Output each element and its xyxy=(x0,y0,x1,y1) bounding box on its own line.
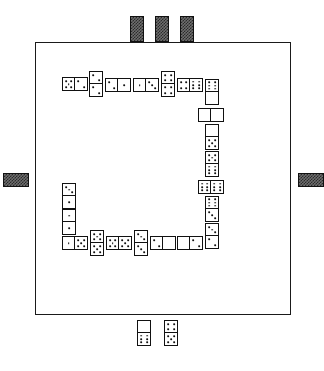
pip xyxy=(77,80,79,82)
domino-blank-blank-half-b xyxy=(211,109,223,121)
domino-blank-6-half-a xyxy=(138,321,150,333)
pip xyxy=(170,338,172,340)
domino-3-2 xyxy=(205,223,219,249)
domino-5-6-half-a xyxy=(206,152,218,164)
pip xyxy=(139,84,141,86)
pip xyxy=(164,86,166,88)
pip xyxy=(211,142,213,144)
pip xyxy=(185,87,187,89)
pip xyxy=(68,201,70,203)
pip xyxy=(208,145,210,147)
domino-blank-6[interactable] xyxy=(137,320,151,346)
domino-4-5-half-a xyxy=(165,321,177,333)
pip xyxy=(208,139,210,141)
domino-2-1-half-a xyxy=(106,79,118,91)
pip xyxy=(173,341,175,343)
pip xyxy=(214,202,216,204)
pip xyxy=(201,190,203,192)
pip xyxy=(70,80,72,82)
pip xyxy=(219,186,221,188)
pip xyxy=(68,83,70,85)
domino-6-3 xyxy=(205,196,219,222)
pip xyxy=(213,190,215,192)
domino-4-4-half-a xyxy=(162,72,174,84)
domino-1-1-half-a xyxy=(63,210,75,222)
domino-6-6-half-a xyxy=(199,181,211,193)
pip xyxy=(65,186,67,188)
pip xyxy=(180,81,182,83)
pip xyxy=(173,323,175,325)
pip xyxy=(214,231,216,233)
pip xyxy=(206,183,208,185)
domino-3-3-half-a xyxy=(135,231,147,243)
pip xyxy=(198,245,200,247)
pip xyxy=(164,92,166,94)
domino-1-1-half-b xyxy=(63,222,75,234)
pip xyxy=(93,233,95,235)
domino-face-down xyxy=(180,16,194,42)
domino-3-2-half-a xyxy=(206,224,218,236)
pip xyxy=(80,242,82,244)
domino-2-2-half-a xyxy=(90,72,102,84)
pip xyxy=(123,84,125,86)
domino-5-2 xyxy=(62,77,88,91)
domino-1-3-half-a xyxy=(134,79,146,91)
pip xyxy=(170,86,172,88)
pip xyxy=(201,183,203,185)
pip xyxy=(219,183,221,185)
pip xyxy=(158,245,160,247)
pip xyxy=(151,84,153,86)
pip xyxy=(148,81,150,83)
pip xyxy=(167,341,169,343)
pip xyxy=(70,86,72,88)
pip xyxy=(68,189,70,191)
pip xyxy=(185,81,187,83)
pip xyxy=(153,239,155,241)
pip xyxy=(214,85,216,87)
pip xyxy=(146,342,148,344)
pip xyxy=(65,80,67,82)
pip xyxy=(167,328,169,330)
pip xyxy=(140,236,142,238)
pip xyxy=(208,88,210,90)
pip xyxy=(83,239,85,241)
pip xyxy=(214,82,216,84)
pip xyxy=(208,85,210,87)
pip xyxy=(214,166,216,168)
domino-4-6-half-a xyxy=(178,79,190,91)
pip xyxy=(206,190,208,192)
domino-1-1 xyxy=(62,209,76,235)
pip xyxy=(92,74,94,76)
pip xyxy=(208,238,210,240)
pip xyxy=(99,238,101,240)
pip xyxy=(83,245,85,247)
pip xyxy=(208,205,210,207)
domino-4-6-half-b xyxy=(190,79,202,91)
domino-6-3-half-b xyxy=(206,209,218,221)
pip xyxy=(198,88,200,90)
domino-3-2-half-b xyxy=(206,236,218,248)
pip xyxy=(214,199,216,201)
domino-2-2-half-b xyxy=(90,84,102,96)
pip xyxy=(121,245,123,247)
pip xyxy=(214,169,216,171)
domino-4-5[interactable] xyxy=(164,320,178,346)
domino-5-2-half-b xyxy=(75,78,87,90)
domino-2-blank-half-a xyxy=(151,237,163,249)
pip xyxy=(109,245,111,247)
domino-blank-2-half-b xyxy=(190,237,202,249)
pip xyxy=(114,245,116,247)
domino-blank-blank xyxy=(198,108,224,122)
pip xyxy=(208,173,210,175)
pip xyxy=(93,251,95,253)
pip xyxy=(198,81,200,83)
domino-2-1 xyxy=(105,78,131,92)
pip xyxy=(208,169,210,171)
pip xyxy=(99,251,101,253)
domino-6-3-half-a xyxy=(206,197,218,209)
pip xyxy=(77,245,79,247)
pip xyxy=(180,87,182,89)
domino-1-3 xyxy=(133,78,159,92)
pip xyxy=(68,242,70,244)
pip xyxy=(208,82,210,84)
